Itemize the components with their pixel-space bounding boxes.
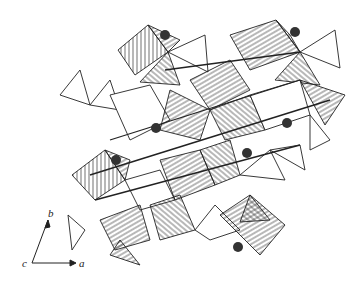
axis-a-label: a	[79, 257, 85, 269]
crystal-structure-figure: b c a	[0, 0, 361, 287]
axis-b-label: b	[48, 207, 54, 219]
axis-c-label: c	[22, 257, 27, 269]
polyhedra-drawing	[0, 0, 361, 287]
